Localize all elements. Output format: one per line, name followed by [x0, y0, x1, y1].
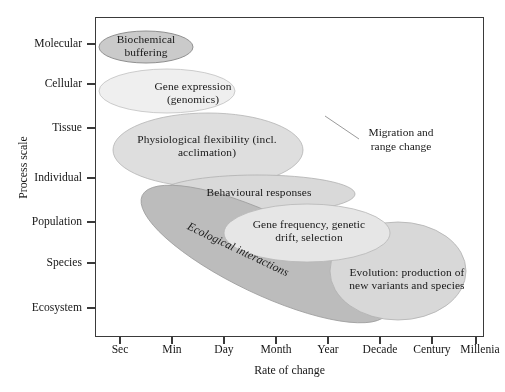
- x-tick-label-sec: Sec: [112, 343, 129, 356]
- annotation-migration-range-change: Migration and range change: [355, 126, 447, 153]
- x-tick-label-century: Century: [413, 343, 450, 356]
- annotation-line: range change: [371, 140, 431, 152]
- x-tick-label-year: Year: [317, 343, 338, 356]
- figure-root: Biochemical buffering Gene expression (g…: [0, 0, 505, 392]
- y-tick-mark: [87, 307, 95, 309]
- x-axis-title: Rate of change: [95, 363, 484, 378]
- y-tick-mark: [87, 43, 95, 45]
- annotation-line: Migration and: [369, 126, 434, 138]
- y-tick-label-tissue: Tissue: [52, 122, 82, 134]
- x-tick-label-decade: Decade: [363, 343, 398, 356]
- y-tick-label-molecular: Molecular: [34, 38, 82, 50]
- y-tick-label-population: Population: [32, 216, 82, 228]
- y-tick-label-ecosystem: Ecosystem: [32, 302, 82, 314]
- y-axis-tick-labels: Molecular Cellular Tissue Individual Pop…: [0, 0, 82, 392]
- y-tick-label-cellular: Cellular: [45, 78, 82, 90]
- y-axis-title: Process scale: [16, 108, 31, 228]
- y-tick-mark: [87, 221, 95, 223]
- y-tick-label-individual: Individual: [34, 172, 82, 184]
- y-tick-mark: [87, 83, 95, 85]
- x-tick-label-day: Day: [214, 343, 233, 356]
- y-tick-mark: [87, 177, 95, 179]
- y-tick-mark: [87, 262, 95, 264]
- y-tick-label-species: Species: [47, 257, 82, 269]
- plot-frame: [95, 17, 484, 337]
- x-tick-label-millenia: Millenia: [460, 343, 499, 356]
- x-tick-label-month: Month: [261, 343, 292, 356]
- x-tick-label-min: Min: [162, 343, 181, 356]
- y-tick-mark: [87, 127, 95, 129]
- x-axis-tick-labels: Sec Min Day Month Year Decade Century Mi…: [95, 343, 484, 363]
